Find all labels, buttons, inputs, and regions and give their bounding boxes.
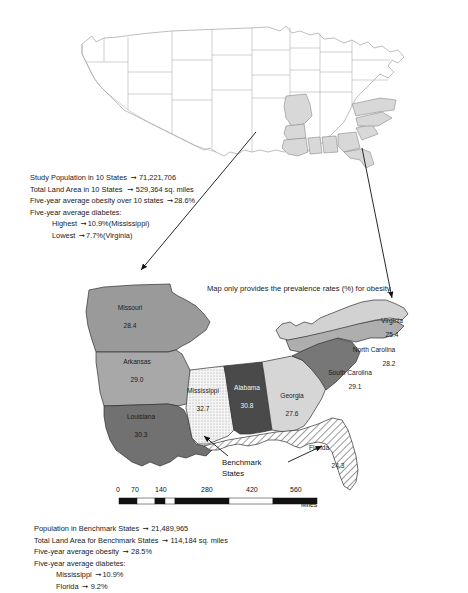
arrow-icon: ➞: [121, 547, 129, 556]
state-label-north-carolina: North Carolina: [353, 346, 396, 353]
leader-line-right: [362, 148, 392, 298]
map-state-missouri[interactable]: [86, 284, 210, 352]
bench-stat-florida-label: Florida: [56, 582, 79, 591]
state-label-georgia: Georgia: [280, 392, 304, 400]
state-value-georgia: 27.6: [286, 410, 299, 417]
stat-total-land-area-value: 529,364 sq. miles: [136, 185, 194, 194]
stat-total-land-area: Total Land Area in 10 States ➞ 529,364 s…: [30, 184, 195, 196]
arrow-icon: ➞: [129, 173, 137, 182]
bench-stat-population-label: Population in Benchmark States: [34, 524, 139, 533]
bench-stat-mississippi-label: Mississippi: [56, 570, 92, 579]
state-value-missouri: 28.4: [124, 322, 137, 329]
inset-state-virginia: [352, 98, 396, 116]
stat-diabetes-lowest-label: Lowest: [52, 231, 75, 240]
state-label-virginia: Virginia: [381, 317, 403, 325]
scale-tick-280: 280: [201, 486, 213, 493]
scale-tick-560: 560: [290, 486, 302, 493]
stat-avg-obesity-value: 28.6%: [174, 196, 195, 205]
scale-tick-140: 140: [155, 486, 167, 493]
bench-stat-avg-obesity-value: 28.5%: [131, 547, 152, 556]
stat-diabetes-highest-value: 10.9%(Mississippi): [88, 219, 150, 228]
stat-diabetes-lowest: Lowest ➞ 7.7%(Virginia): [30, 230, 195, 242]
inset-state-florida: [344, 149, 374, 168]
bench-stat-avg-diabetes-header: Five-year average diabetes:: [34, 558, 228, 570]
arrow-icon: ➞: [166, 196, 173, 205]
scale-seg-2: [137, 498, 155, 504]
stat-diabetes-highest: Highest ➞ 10.9%(Mississippi): [30, 218, 195, 230]
state-value-alabama: 30.8: [241, 402, 254, 409]
arrow-icon: ➞: [77, 231, 84, 240]
stat-study-population-label: Study Population in 10 States: [30, 173, 127, 182]
arrow-icon: ➞: [94, 570, 101, 579]
bench-stat-land-area-value: 114,184 sq. miles: [171, 536, 228, 545]
scale-seg-5: [175, 498, 229, 504]
state-value-virginia: 25.4: [386, 331, 399, 338]
inset-us-map: [82, 26, 404, 168]
benchmark-statistics-block: Population in Benchmark States ➞ 21,489,…: [34, 523, 228, 593]
state-value-north-carolina: 28.2: [383, 360, 396, 367]
scale-bar: [119, 498, 317, 504]
inset-state-alabama: [322, 136, 338, 153]
state-value-louisiana: 30.3: [135, 431, 148, 438]
scale-unit-label: Miles: [301, 501, 317, 508]
bench-stat-avg-obesity-label: Five-year average obesity: [34, 547, 119, 556]
scale-tick-70: 70: [131, 486, 139, 493]
map-note-text: Map only provides the prevalence rates (…: [207, 284, 391, 293]
inset-state-arkansas: [284, 124, 306, 140]
map-figure-svg: Missouri 28.4 Arkansas 29.0 Louisiana 30…: [0, 0, 468, 593]
stat-avg-obesity-label: Five-year average obesity over 10 states: [30, 196, 164, 205]
state-value-mississippi: 32.7: [197, 405, 210, 412]
arrow-icon: ➞: [79, 219, 86, 228]
scale-seg-1: [119, 498, 137, 504]
scale-tick-0: 0: [116, 486, 120, 493]
state-label-mississippi: Mississippi: [187, 387, 219, 395]
figure-root: Missouri 28.4 Arkansas 29.0 Louisiana 30…: [0, 0, 468, 593]
scale-seg-3: [155, 498, 165, 504]
benchmark-arrow-florida: [288, 446, 322, 462]
bench-stat-mississippi: Mississippi ➞ 10.9%: [34, 569, 228, 581]
state-label-south-carolina: South Carolina: [328, 369, 372, 376]
inset-state-south-carolina: [356, 124, 378, 140]
stat-study-population: Study Population in 10 States ➞ 71,221,7…: [30, 172, 195, 184]
bench-stat-land-area: Total Land Area for Benchmark States ➞ 1…: [34, 535, 228, 547]
bench-stat-population: Population in Benchmark States ➞ 21,489,…: [34, 523, 228, 535]
state-label-alabama: Alabama: [234, 384, 260, 391]
state-label-louisiana: Louisiana: [127, 413, 156, 420]
arrow-icon: ➞: [141, 524, 149, 533]
bench-stat-avg-obesity: Five-year average obesity ➞ 28.5%: [34, 546, 228, 558]
bench-stat-florida-value: 9.2%: [91, 582, 108, 591]
state-label-missouri: Missouri: [118, 304, 143, 311]
inset-state-mississippi: [308, 137, 322, 154]
inset-state-louisiana: [282, 138, 308, 156]
benchmark-states-label: Benchmark States: [222, 458, 261, 479]
bench-stat-population-value: 21,489,965: [151, 524, 188, 533]
arrow-icon: ➞: [125, 185, 134, 194]
map-note: Map only provides the prevalence rates (…: [207, 283, 391, 294]
benchmark-label-line1: Benchmark: [222, 458, 261, 469]
state-value-arkansas: 29.0: [131, 376, 144, 383]
bench-stat-land-area-label: Total Land Area for Benchmark States: [34, 536, 158, 545]
arrow-icon: ➞: [81, 582, 89, 591]
study-statistics-block: Study Population in 10 States ➞ 71,221,7…: [30, 172, 195, 242]
stat-study-population-value: 71,221,706: [139, 173, 176, 182]
scale-seg-4: [165, 498, 175, 504]
bench-stat-florida: Florida ➞ 9.2%: [34, 581, 228, 593]
state-label-arkansas: Arkansas: [123, 358, 151, 365]
stat-diabetes-lowest-value: 7.7%(Virginia): [86, 231, 132, 240]
benchmark-label-line2: States: [222, 469, 261, 480]
scale-tick-420: 420: [246, 486, 258, 493]
stat-total-land-area-label: Total Land Area in 10 States: [30, 185, 122, 194]
stat-diabetes-highest-label: Highest: [52, 219, 77, 228]
inset-state-georgia: [338, 132, 360, 152]
state-value-south-carolina: 29.1: [349, 383, 362, 390]
state-value-florida: 24.3: [332, 462, 345, 469]
scale-seg-6: [229, 498, 273, 504]
bench-stat-mississippi-value: 10.9%: [102, 570, 123, 579]
stat-avg-diabetes-header: Five-year average diabetes:: [30, 207, 195, 219]
arrow-icon: ➞: [161, 536, 169, 545]
stat-avg-obesity: Five-year average obesity over 10 states…: [30, 195, 195, 207]
